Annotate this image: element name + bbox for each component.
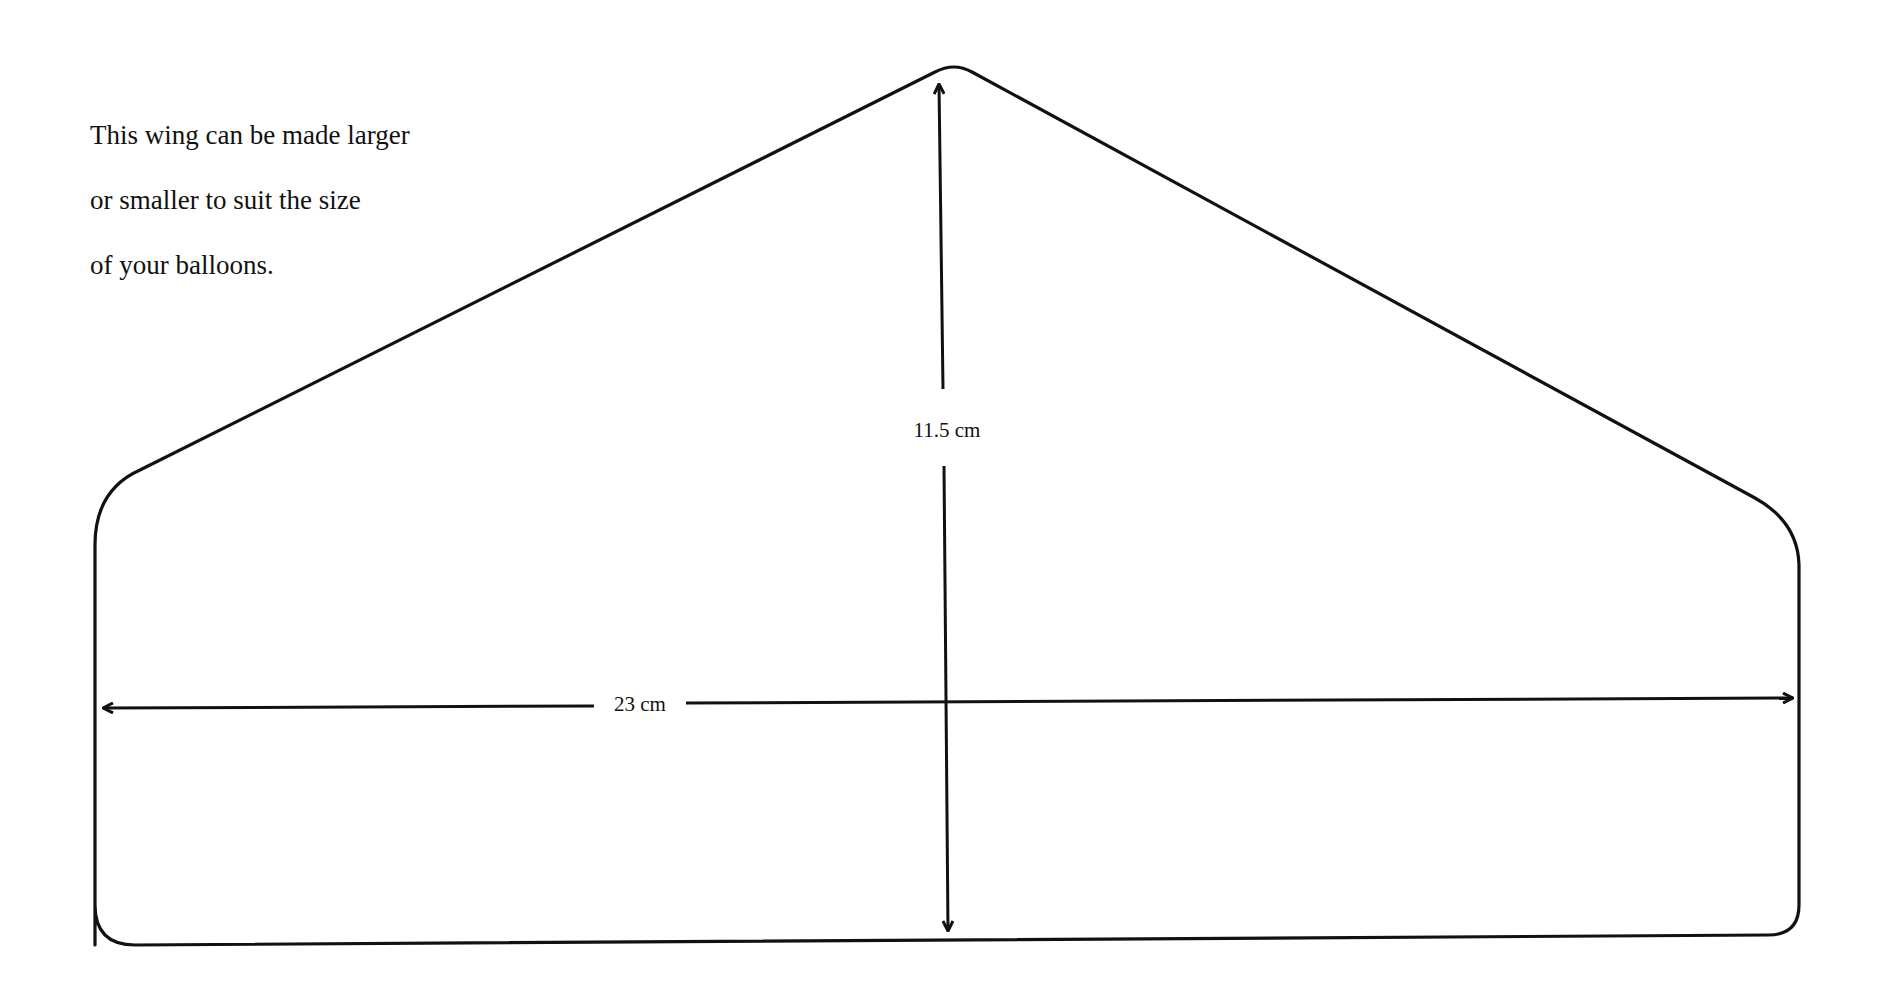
width-dimension-label: 23 cm bbox=[614, 692, 666, 717]
height-dimension-label: 11.5 cm bbox=[914, 418, 981, 443]
width-dimension-line-right bbox=[686, 698, 1793, 703]
height-dimension-line-lower bbox=[944, 466, 948, 931]
height-dimension-line-upper bbox=[939, 84, 943, 389]
wing-diagram bbox=[0, 0, 1891, 1000]
width-dimension-line-left bbox=[103, 706, 594, 708]
